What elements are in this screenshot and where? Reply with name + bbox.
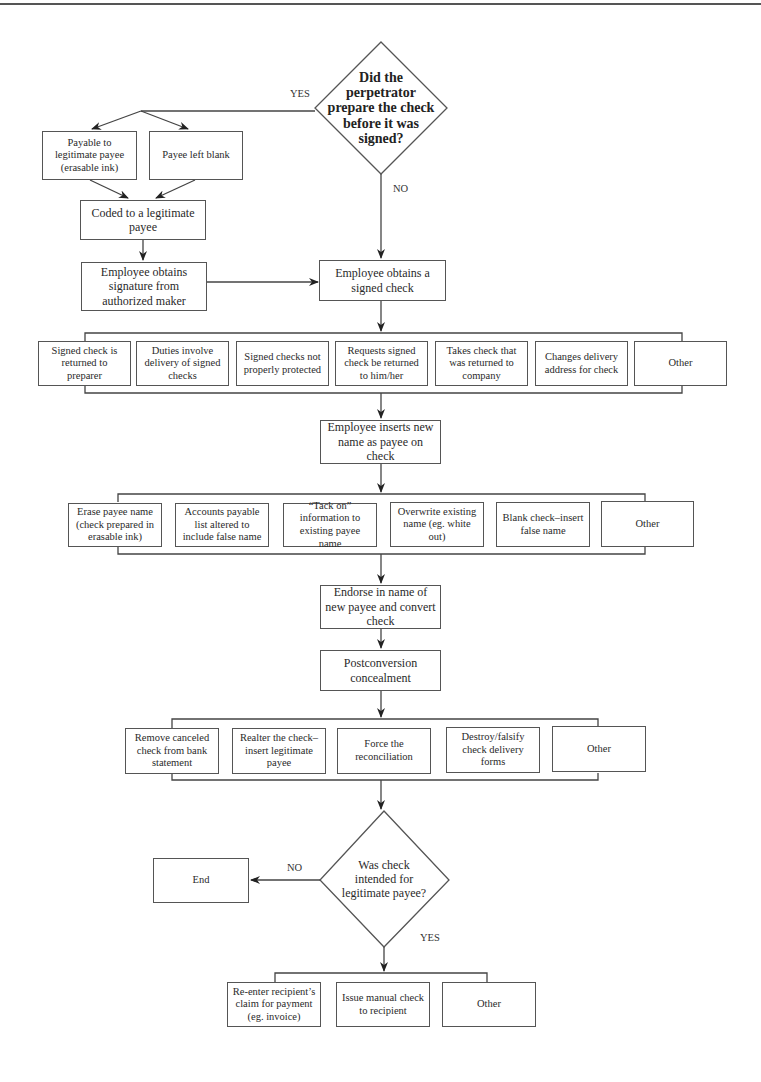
step-text: Postconversion concealment — [325, 656, 436, 685]
action-text: Other — [477, 998, 501, 1011]
conceal-force-reconciliation: Force the reconciliation — [337, 728, 431, 774]
option-payable-erasable-ink: Payable to legitimate payee (erasable in… — [42, 131, 137, 180]
action-text: Re-enter recipient’s claim for payment (… — [232, 986, 316, 1024]
step-inserts-new-payee: Employee inserts new name as payee on ch… — [320, 420, 441, 464]
step-postconversion-concealment: Postconversion concealment — [320, 650, 441, 691]
conceal-remove-canceled: Remove canceled check from bank statemen… — [125, 728, 219, 774]
method-text: Signed check is returned to preparer — [43, 345, 126, 383]
method-text: Other — [636, 518, 660, 531]
decision-intended-legitimate: Was check intended for legitimate payee? — [338, 840, 430, 920]
method-changes-address: Changes delivery address for check — [535, 341, 628, 386]
no-label-2: NO — [287, 862, 302, 873]
method-text: Erase payee name (check prepared in eras… — [73, 506, 157, 544]
step-coded-legitimate-payee: Coded to a legitimate payee — [80, 200, 206, 240]
method-text: Other — [587, 743, 611, 756]
method-text: Realter the check–insert legitimate paye… — [237, 732, 321, 770]
method-text: Force the reconciliation — [342, 738, 426, 763]
yes-label-1: YES — [290, 88, 310, 99]
method-requests-return: Requests signed check be returned to him… — [335, 341, 428, 386]
final-reenter-claim: Re-enter recipient’s claim for payment (… — [227, 982, 321, 1027]
method-duties-delivery: Duties involve delivery of signed checks — [136, 341, 229, 386]
decision-1-text: Did the perpetrator prepare the check be… — [325, 70, 437, 146]
method-text: Destroy/falsify check delivery forms — [451, 731, 535, 769]
alter-other: Other — [601, 501, 694, 547]
step-text: Employee obtains signature from authoriz… — [86, 265, 202, 308]
decision-prepared-before-signed: Did the perpetrator prepare the check be… — [325, 58, 437, 158]
yes-label-2: YES — [420, 932, 440, 943]
step-obtains-signed-check: Employee obtains a signed check — [319, 260, 446, 301]
method-text: Takes check that was returned to company — [440, 345, 523, 383]
end-text: End — [193, 874, 210, 887]
step-text: Employee inserts new name as payee on ch… — [325, 420, 436, 463]
method-text: Changes delivery address for check — [540, 351, 623, 376]
alter-blank-check: Blank check–insert false name — [496, 502, 590, 547]
option-text: Payable to legitimate payee (erasable in… — [47, 137, 132, 175]
method-text: Accounts payable list altered to include… — [180, 506, 264, 544]
step-obtains-signature: Employee obtains signature from authoriz… — [81, 262, 207, 311]
option-text: Payee left blank — [162, 149, 230, 162]
conceal-other: Other — [552, 726, 646, 772]
final-issue-manual-check: Issue manual check to recipient — [336, 982, 430, 1027]
flowchart-canvas: Did the perpetrator prepare the check be… — [0, 0, 761, 1082]
decision-2-text: Was check intended for legitimate payee? — [338, 859, 430, 900]
method-takes-returned-check: Takes check that was returned to company — [435, 341, 528, 386]
method-text: Requests signed check be returned to him… — [340, 345, 423, 383]
step-endorse-convert: Endorse in name of new payee and convert… — [320, 585, 441, 629]
final-other: Other — [442, 982, 536, 1027]
method-text: “Tack on” information to existing payee … — [288, 500, 372, 550]
step-text: Endorse in name of new payee and convert… — [325, 585, 436, 628]
alter-erase-payee: Erase payee name (check prepared in eras… — [68, 503, 162, 547]
option-payee-left-blank: Payee left blank — [149, 131, 243, 180]
method-text: Signed checks not properly protected — [241, 351, 324, 376]
method-text: Blank check–insert false name — [501, 512, 585, 537]
method-not-protected: Signed checks not properly protected — [236, 341, 329, 386]
conceal-destroy-forms: Destroy/falsify check delivery forms — [446, 727, 540, 773]
action-text: Issue manual check to recipient — [341, 992, 425, 1017]
method-text: Other — [669, 357, 693, 370]
method-other: Other — [634, 341, 727, 386]
no-label-1: NO — [393, 183, 408, 194]
method-text: Duties involve delivery of signed checks — [141, 345, 224, 383]
step-text: Employee obtains a signed check — [324, 266, 441, 295]
step-text: Coded to a legitimate payee — [85, 206, 201, 235]
conceal-realter: Realter the check–insert legitimate paye… — [232, 728, 326, 774]
end-terminal: End — [153, 858, 249, 903]
method-returned-to-preparer: Signed check is returned to preparer — [38, 341, 131, 386]
method-text: Overwrite existing name (eg. white out) — [395, 506, 479, 544]
alter-tack-on: “Tack on” information to existing payee … — [283, 503, 377, 547]
method-text: Remove canceled check from bank statemen… — [130, 732, 214, 770]
alter-overwrite: Overwrite existing name (eg. white out) — [390, 502, 484, 547]
alter-ap-list: Accounts payable list altered to include… — [175, 503, 269, 547]
